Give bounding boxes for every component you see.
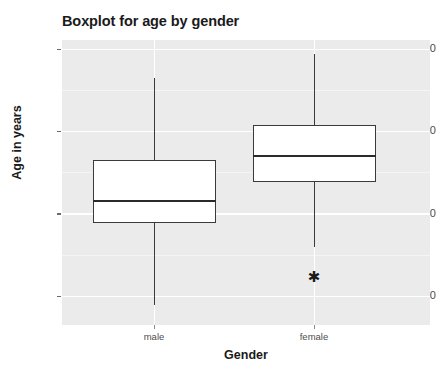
median-line-male [93, 200, 216, 202]
y-tick-mark-60 [57, 131, 61, 132]
x-tick-mark-female [314, 325, 315, 329]
gridline-minor-70 [62, 90, 430, 91]
gridline-major-80 [62, 49, 430, 50]
y-tick-mark-20 [57, 296, 61, 297]
box-female [253, 125, 376, 182]
box-male [93, 160, 216, 223]
gridline-major-20 [62, 296, 430, 297]
y-tick-mark-80 [57, 49, 61, 50]
whisker-upper-male [154, 78, 156, 160]
whisker-upper-female [314, 54, 316, 125]
x-axis-title: Gender [62, 348, 430, 362]
whisker-lower-male [154, 223, 156, 305]
median-line-female [253, 155, 376, 157]
y-axis-title: Age in years [8, 0, 26, 285]
outlier-marker-female: ✱ [306, 270, 322, 285]
gridline-minor-30 [62, 255, 430, 256]
plot-panel: ✱ [62, 40, 430, 325]
whisker-lower-female [314, 182, 316, 247]
x-tick-mark-male [154, 325, 155, 329]
boxplot-figure: Boxplot for age by gender Age in years G… [0, 0, 436, 373]
x-tick-label-male: male [114, 331, 194, 342]
x-tick-label-female: female [274, 331, 354, 342]
y-tick-mark-40 [57, 213, 61, 214]
chart-title: Boxplot for age by gender [62, 13, 239, 29]
